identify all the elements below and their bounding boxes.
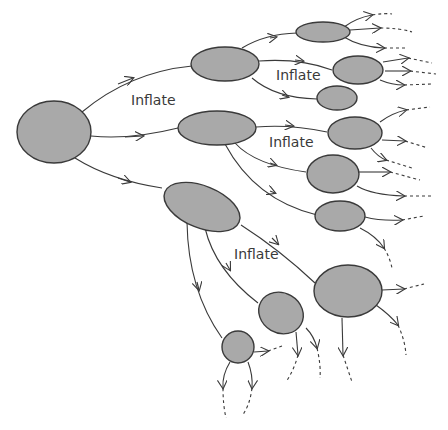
node [328,117,382,149]
node [222,331,254,363]
node [296,22,350,42]
node [191,47,259,81]
node [251,284,311,342]
inflate-label-1: Inflate [131,92,176,108]
inflation-diagram: Inflate Inflate Inflate Inflate [0,0,448,430]
node [178,111,256,145]
inflate-label-4: Inflate [234,246,279,262]
edge [75,158,162,188]
node [314,265,382,317]
node [333,56,383,84]
nodes [17,22,383,363]
diagram-canvas [0,0,448,430]
edge [91,128,178,137]
node [157,173,247,242]
node [317,86,357,110]
inflate-label-2: Inflate [276,67,321,83]
node [315,201,365,231]
node [307,155,359,193]
root-node [17,101,91,163]
inflate-label-3: Inflate [269,134,314,150]
